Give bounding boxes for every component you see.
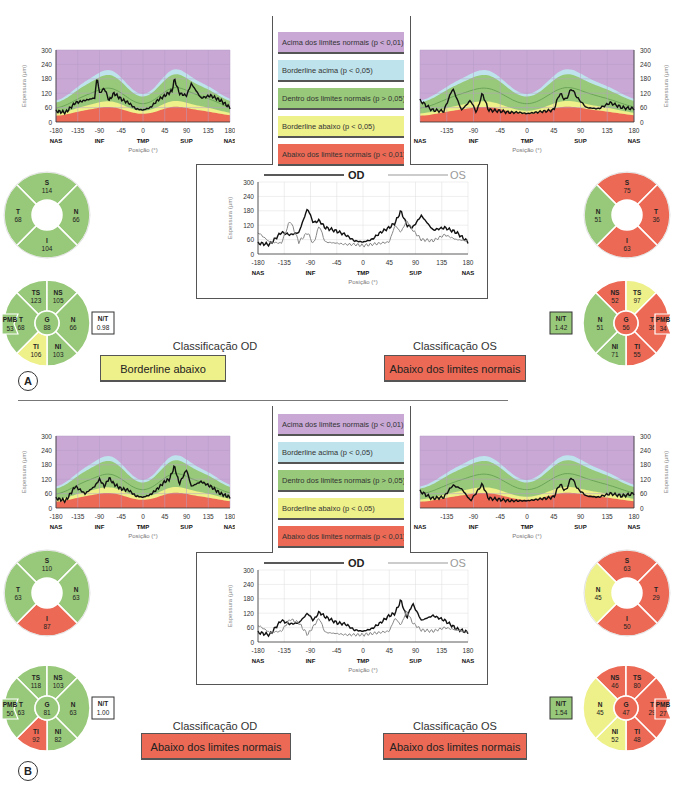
svg-text:OD: OD [348,169,365,181]
svg-text:300: 300 [243,179,254,186]
combined-frame-top-right [410,164,488,165]
svg-text:180: 180 [640,75,651,82]
od-classification-box: Abaixo dos limites normais [141,733,291,760]
svg-text:TMP: TMP [357,270,370,276]
svg-text:TI: TI [634,343,640,350]
svg-text:NAS: NAS [462,270,475,276]
combined-frame-bottom [196,298,488,299]
svg-text:NAS: NAS [50,524,63,530]
svg-text:Posição (°): Posição (°) [512,147,541,153]
os-quadrant-circle: S63T29I50N45 [582,548,672,638]
svg-text:63: 63 [14,594,22,601]
legend-item-within: Dentro dos limites normais (p > 0,05) [278,88,404,110]
svg-text:-90: -90 [95,127,105,134]
svg-text:60: 60 [45,490,53,497]
svg-text:Espessura (µm): Espessura (µm) [227,585,233,627]
svg-text:300: 300 [640,47,651,54]
svg-text:135: 135 [602,513,613,520]
svg-text:300: 300 [243,567,254,574]
combined-frame-bottom [196,684,488,685]
svg-text:PMB: PMB [656,701,671,708]
svg-text:-135: -135 [71,127,84,134]
svg-text:87: 87 [43,623,51,630]
svg-text:N: N [71,701,76,708]
svg-text:Espessura (µm): Espessura (µm) [21,65,27,107]
svg-text:G: G [44,701,49,708]
svg-text:Espessura (µm): Espessura (µm) [663,65,669,107]
combined-frame-left [196,164,197,298]
svg-text:0: 0 [640,119,644,126]
svg-text:T: T [654,586,658,593]
svg-text:0: 0 [640,505,644,512]
combined-frame-left [196,552,197,684]
od-tsnit-chart: 300240180120600-180-135-90-4504590135180… [0,40,235,165]
combined-frame-top-left [196,552,273,553]
svg-text:180: 180 [41,75,52,82]
svg-text:Espessura (µm): Espessura (µm) [227,197,233,239]
svg-text:-45: -45 [117,513,127,520]
svg-text:63: 63 [72,594,80,601]
svg-text:180: 180 [640,461,651,468]
svg-text:PMB: PMB [3,701,18,708]
svg-text:NS: NS [610,674,620,681]
svg-text:SUP: SUP [574,524,586,530]
svg-text:240: 240 [41,61,52,68]
svg-text:120: 120 [243,222,254,229]
svg-text:55: 55 [633,351,641,358]
svg-text:N/T: N/T [556,315,567,322]
svg-text:NS: NS [610,289,620,296]
svg-text:G: G [44,316,49,323]
svg-text:N: N [74,208,79,215]
svg-text:180: 180 [243,207,254,214]
svg-text:TMP: TMP [357,658,370,664]
svg-text:82: 82 [54,736,62,743]
legend-item-borderline-below: Borderline abaixo (p < 0,05) [278,498,404,520]
od-classification-box: Borderline abaixo [100,355,226,382]
svg-text:N: N [71,316,76,323]
svg-text:I: I [46,615,48,622]
svg-text:90: 90 [577,513,585,520]
svg-text:1.00: 1.00 [97,709,110,716]
svg-text:T: T [16,586,20,593]
svg-text:53: 53 [6,325,14,332]
svg-text:240: 240 [640,447,651,454]
svg-text:TS: TS [633,289,642,296]
svg-text:-180: -180 [251,647,264,654]
od-tsnit-chart: 300240180120600-180-135-90-4504590135180… [0,426,235,551]
legend-frame-right [410,16,411,164]
svg-text:T: T [650,316,654,323]
svg-text:-45: -45 [496,127,506,134]
combined-frame-right [487,164,488,298]
svg-text:NAS: NAS [414,524,427,530]
svg-text:TI: TI [33,728,39,735]
svg-text:118: 118 [31,682,42,689]
legend: Acima dos limites normais (p < 0,01) Bor… [278,32,404,172]
svg-text:0: 0 [361,259,365,266]
svg-text:N: N [596,586,601,593]
svg-text:S: S [625,557,630,564]
svg-text:60: 60 [247,624,255,631]
panel-b: 300240180120600-180-135-90-4504590135180… [0,400,674,788]
svg-text:INF: INF [306,270,316,276]
svg-text:INF: INF [469,138,479,144]
svg-text:N: N [596,208,601,215]
svg-text:-90: -90 [306,259,316,266]
svg-text:88: 88 [43,324,51,331]
svg-text:180: 180 [463,647,474,654]
svg-text:N: N [74,586,79,593]
svg-text:63: 63 [623,565,631,572]
svg-text:60: 60 [247,236,255,243]
legend-item-within: Dentro dos limites normais (p > 0,05) [278,470,404,492]
os-classification-box: Abaixo dos limites normais [384,355,526,382]
svg-text:-180: -180 [49,513,62,520]
svg-text:INF: INF [469,524,479,530]
combined-frame-top-left [196,164,273,165]
svg-text:T: T [650,701,654,708]
svg-text:120: 120 [640,476,651,483]
svg-text:300: 300 [640,433,651,440]
svg-text:103: 103 [53,682,64,689]
svg-text:NI: NI [55,343,62,350]
svg-text:97: 97 [633,297,641,304]
panel-label-a: A [18,371,38,391]
legend-frame-left [272,16,273,164]
